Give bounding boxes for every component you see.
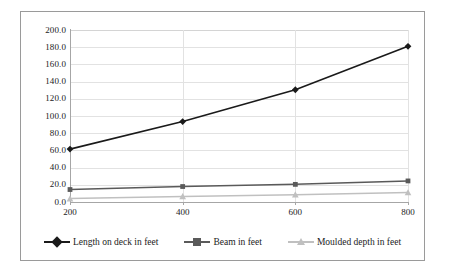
legend-item[interactable]: Beam in feet [184,236,262,248]
diamond-marker-icon [405,43,412,50]
diamond-marker-icon [67,146,74,153]
legend-key [288,236,314,248]
square-marker-icon [180,184,185,189]
legend-item[interactable]: Length on deck in feet [44,236,158,248]
series-1 [67,43,412,153]
series-2 [68,179,411,192]
x-axis-tickmark [70,202,71,205]
legend-key [44,236,70,248]
legend-label: Length on deck in feet [73,237,158,248]
series-line [70,181,408,190]
legend-key [184,236,210,248]
line-chart-figure: 200.0180.0160.0140.0120.0100.080.060.040… [0,0,449,277]
legend-item[interactable]: Moulded depth in feet [288,236,401,248]
series-3 [67,189,412,201]
legend-label: Beam in feet [213,237,262,248]
square-marker-icon [293,182,298,187]
x-axis-tickmark [183,202,184,205]
square-marker-icon [68,187,73,192]
legend-label: Moulded depth in feet [317,237,401,248]
triangle-marker-icon [297,238,305,245]
square-marker-icon [193,238,201,246]
chart-legend: Length on deck in feetBeam in feetMoulde… [20,232,425,252]
series-line [70,46,408,149]
diamond-marker-icon [179,118,186,125]
square-marker-icon [406,179,411,184]
diamond-marker-icon [51,236,62,247]
series-line [70,193,408,199]
x-axis-tickmark [295,202,296,205]
x-axis-tickmark [408,202,409,205]
diamond-marker-icon [292,86,299,93]
